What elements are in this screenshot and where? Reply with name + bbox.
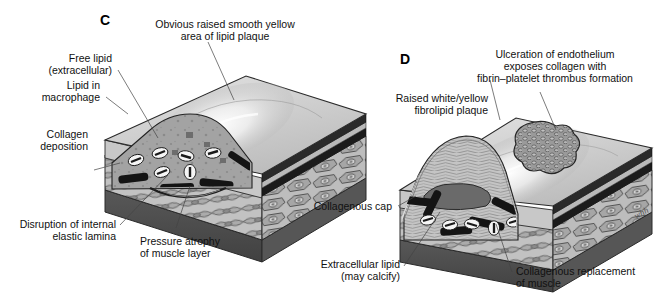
label-ulceration-line2: exposes collagen with	[504, 60, 607, 72]
panel-d-thrombus	[514, 121, 580, 173]
label-collagenous-cap: Collagenous cap	[314, 200, 392, 212]
label-ulceration-line1: Ulceration of endothelium	[495, 48, 614, 60]
label-disruption-elastic-lamina-line1: Disruption of internal	[20, 218, 116, 230]
label-collagenous-replacement-line1: Collagenous replacement	[516, 265, 635, 277]
label-extracellular-lipid-line1: Extracellular lipid	[321, 258, 401, 270]
label-raised-fibrolipid-line2: fibrolipid plaque	[414, 104, 488, 116]
label-free-lipid-line1: Free lipid	[69, 52, 112, 64]
label-collagenous-replacement-line2: of muscle	[516, 277, 561, 289]
panel-letter-d: D	[400, 51, 410, 67]
thrombus-mass	[514, 121, 580, 173]
label-lipid-in-macrophage-line1: Lipid in	[67, 79, 100, 91]
label-raised-fibrolipid-line1: Raised white/yellow	[396, 92, 489, 104]
label-collagen-deposition-line2: deposition	[40, 140, 88, 152]
figure-canvas: C Obvious raised smooth yellow area of l…	[0, 0, 670, 300]
atherosclerosis-figure: C Obvious raised smooth yellow area of l…	[0, 0, 670, 300]
label-ulceration-line3: fibrin–platelet thrombus formation	[477, 72, 633, 84]
label-extracellular-lipid-line2: (may calcify)	[341, 270, 400, 282]
label-obvious-raised-plaque-line2: area of lipid plaque	[181, 30, 270, 42]
label-disruption-elastic-lamina-line2: elastic lamina	[52, 230, 116, 242]
label-collagen-deposition-line1: Collagen	[47, 128, 89, 140]
label-pressure-atrophy-line1: Pressure atrophy	[140, 235, 221, 247]
label-obvious-raised-plaque-line1: Obvious raised smooth yellow	[155, 18, 295, 30]
label-free-lipid-line2: (extracellular)	[48, 64, 112, 76]
label-lipid-in-macrophage-line2: macrophage	[42, 91, 101, 103]
panel-letter-c: C	[100, 12, 110, 28]
label-pressure-atrophy-line2: of muscle layer	[140, 247, 211, 259]
